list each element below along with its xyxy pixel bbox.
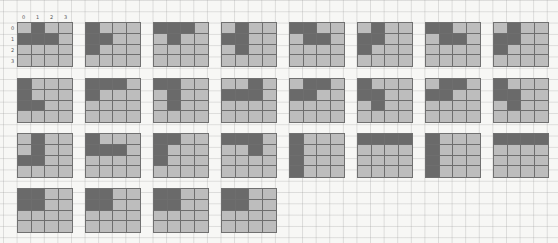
empty-cell: [535, 111, 549, 122]
empty-cell: [236, 111, 250, 122]
tetromino-grid-14: [357, 78, 413, 123]
empty-cell: [100, 156, 114, 167]
empty-cell: [195, 211, 209, 222]
filled-cell: [453, 34, 467, 45]
tetromino-grid-12: [221, 78, 277, 123]
empty-cell: [249, 101, 263, 112]
filled-cell: [358, 79, 372, 90]
empty-cell: [249, 211, 263, 222]
empty-cell: [331, 166, 345, 177]
empty-cell: [249, 156, 263, 167]
empty-cell: [263, 145, 277, 156]
row-label-0: 0: [11, 26, 14, 31]
empty-cell: [249, 189, 263, 200]
empty-cell: [127, 55, 141, 66]
empty-cell: [399, 156, 413, 167]
empty-cell: [59, 101, 73, 112]
filled-cell: [18, 101, 32, 112]
empty-cell: [263, 211, 277, 222]
empty-cell: [59, 79, 73, 90]
filled-cell: [304, 90, 318, 101]
empty-cell: [127, 211, 141, 222]
empty-cell: [222, 211, 236, 222]
empty-cell: [290, 45, 304, 56]
filled-cell: [372, 34, 386, 45]
filled-cell: [222, 134, 236, 145]
empty-cell: [453, 156, 467, 167]
empty-cell: [100, 166, 114, 177]
empty-cell: [127, 101, 141, 112]
empty-cell: [154, 55, 168, 66]
empty-cell: [358, 55, 372, 66]
empty-cell: [45, 45, 59, 56]
filled-cell: [168, 90, 182, 101]
filled-cell: [426, 156, 440, 167]
filled-cell: [290, 156, 304, 167]
tetromino-grid-18: [85, 133, 141, 178]
empty-cell: [236, 211, 250, 222]
filled-cell: [372, 134, 386, 145]
empty-cell: [113, 55, 127, 66]
empty-cell: [222, 221, 236, 232]
filled-cell: [168, 79, 182, 90]
filled-cell: [100, 189, 114, 200]
empty-cell: [263, 156, 277, 167]
empty-cell: [154, 221, 168, 232]
filled-cell: [290, 166, 304, 177]
filled-cell: [236, 34, 250, 45]
empty-cell: [304, 55, 318, 66]
empty-cell: [168, 145, 182, 156]
filled-cell: [426, 23, 440, 34]
empty-cell: [453, 23, 467, 34]
tetromino-grid-16: [493, 78, 549, 123]
empty-cell: [304, 145, 318, 156]
empty-cell: [521, 111, 535, 122]
empty-cell: [453, 45, 467, 56]
empty-cell: [535, 79, 549, 90]
empty-cell: [263, 34, 277, 45]
empty-cell: [59, 156, 73, 167]
empty-cell: [45, 211, 59, 222]
filled-cell: [86, 79, 100, 90]
empty-cell: [222, 55, 236, 66]
empty-cell: [263, 111, 277, 122]
empty-cell: [45, 145, 59, 156]
empty-cell: [331, 101, 345, 112]
empty-cell: [453, 166, 467, 177]
filled-cell: [426, 145, 440, 156]
filled-cell: [154, 79, 168, 90]
empty-cell: [399, 111, 413, 122]
empty-cell: [249, 111, 263, 122]
empty-cell: [467, 23, 481, 34]
empty-cell: [113, 23, 127, 34]
empty-cell: [385, 55, 399, 66]
empty-cell: [100, 90, 114, 101]
empty-cell: [86, 166, 100, 177]
filled-cell: [372, 90, 386, 101]
empty-cell: [317, 23, 331, 34]
filled-cell: [100, 145, 114, 156]
filled-cell: [358, 45, 372, 56]
filled-cell: [86, 189, 100, 200]
filled-cell: [86, 134, 100, 145]
empty-cell: [331, 134, 345, 145]
tetromino-grid-1: [17, 22, 73, 67]
empty-cell: [18, 134, 32, 145]
empty-cell: [358, 111, 372, 122]
empty-cell: [263, 221, 277, 232]
empty-cell: [236, 145, 250, 156]
empty-cell: [168, 45, 182, 56]
empty-cell: [372, 111, 386, 122]
filled-cell: [32, 200, 46, 211]
filled-cell: [100, 79, 114, 90]
empty-cell: [426, 45, 440, 56]
empty-cell: [181, 200, 195, 211]
empty-cell: [127, 166, 141, 177]
empty-cell: [249, 55, 263, 66]
empty-cell: [32, 221, 46, 232]
empty-cell: [127, 221, 141, 232]
empty-cell: [508, 45, 522, 56]
empty-cell: [195, 200, 209, 211]
empty-cell: [32, 90, 46, 101]
column-label-3: 3: [64, 15, 67, 20]
